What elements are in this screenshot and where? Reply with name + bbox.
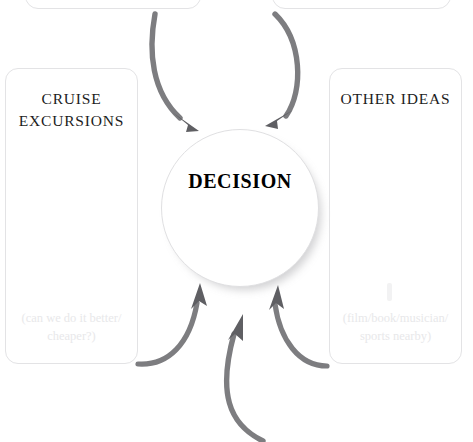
category-box-top-right[interactable]: [272, 0, 451, 9]
category-box-other-ideas[interactable]: OTHER IDEAS (film/book/musician/ sports …: [329, 68, 462, 364]
category-box-other-ideas-hint: (film/book/musician/ sports nearby): [336, 309, 455, 345]
arrow-top-right-to-center: [265, 14, 298, 129]
arrow-bottom-right-to-center: [269, 285, 327, 366]
arrow-bottom-left-to-center: [138, 283, 207, 364]
diagram-canvas: CRUISE EXCURSIONS (can we do it better/ …: [0, 0, 473, 442]
category-box-cruise-excursions-title: CRUISE EXCURSIONS: [6, 88, 137, 132]
category-box-other-ideas-title: OTHER IDEAS: [330, 88, 461, 110]
category-box-top-left[interactable]: [25, 0, 201, 9]
decision-circle[interactable]: DECISION: [161, 129, 319, 287]
arrow-bottom-center-to-center: [227, 314, 263, 441]
arrow-top-left-to-center: [152, 14, 199, 132]
category-box-cruise-excursions[interactable]: CRUISE EXCURSIONS (can we do it better/ …: [5, 68, 138, 364]
decision-label: DECISION: [162, 170, 318, 193]
category-box-cruise-excursions-hint: (can we do it better/ cheaper?): [12, 309, 131, 345]
